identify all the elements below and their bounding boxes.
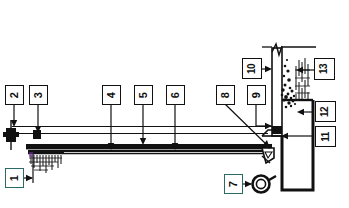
callout-2-label: 2 [9,92,20,98]
callout-3-label: 3 [33,92,44,98]
callout-2[interactable]: 2 [5,85,24,105]
callout-5[interactable]: 5 [134,85,153,105]
horizontal-beam [26,144,272,154]
callout-13[interactable]: 13 [314,58,335,80]
callout-11[interactable]: 11 [315,126,336,147]
callout-11-label: 11 [320,132,330,142]
callout-8-label: 8 [220,92,231,98]
zigzag-break-line [272,44,282,55]
callout-7[interactable]: 7 [224,174,243,194]
leader-lines [14,69,314,184]
callout-5-label: 5 [138,92,149,98]
stippled-material-fill [281,59,296,108]
callout-1-label: 1 [9,175,20,181]
callout-9[interactable]: 9 [247,85,266,105]
roller-circle [253,176,277,193]
discharge-wedge [262,148,274,163]
hatched-foundation [28,152,64,183]
vertical-column [262,47,316,136]
secondary-connector-block [33,130,41,139]
callout-13-label: 13 [320,64,330,74]
callout-10[interactable]: 10 [242,58,262,79]
upper-rail-line [12,127,272,134]
callout-9-label: 9 [251,92,262,98]
callout-6-label: 6 [170,92,181,98]
callout-12-label: 12 [321,106,331,116]
callout-10-label: 10 [247,63,257,73]
callout-1[interactable]: 1 [5,168,24,188]
callout-7-label: 7 [228,181,239,187]
leader-arrowheads [11,66,304,187]
callout-4[interactable]: 4 [102,85,121,105]
hatched-material-fill [295,58,310,100]
callout-4-label: 4 [106,92,117,98]
callout-6[interactable]: 6 [166,85,185,105]
right-chamber [262,100,313,190]
callout-3[interactable]: 3 [29,85,48,105]
technical-diagram: 2 3 4 5 6 8 9 10 13 12 11 7 1 [0,0,349,208]
callout-8[interactable]: 8 [216,85,235,105]
left-end-block [3,120,19,150]
callout-12[interactable]: 12 [315,101,336,122]
